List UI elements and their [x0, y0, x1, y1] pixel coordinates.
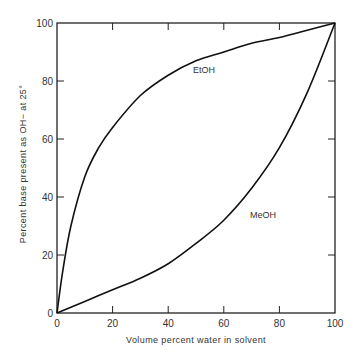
data-series: EtOHMeOH [57, 23, 335, 313]
y-tick-label: 40 [42, 192, 54, 203]
y-tick-label: 100 [36, 18, 53, 29]
x-tick-label: 80 [274, 318, 286, 329]
y-axis-title: Percent base present as OH− at 25° [18, 85, 28, 244]
y-tick-label: 80 [42, 76, 54, 87]
x-axis-title: Volume percent water in solvent [126, 335, 266, 345]
y-tick-label: 0 [47, 308, 53, 319]
axis-ticks: 020406080100020406080100 [36, 18, 343, 329]
series-label-meoh: MeOH [250, 210, 276, 220]
series-label-etoh: EtOH [193, 65, 215, 75]
x-tick-label: 40 [163, 318, 175, 329]
y-tick-label: 20 [42, 250, 54, 261]
x-tick-label: 20 [107, 318, 119, 329]
x-tick-label: 60 [218, 318, 230, 329]
chart: 020406080100020406080100 EtOHMeOH Volume… [0, 0, 361, 357]
x-tick-label: 100 [327, 318, 344, 329]
y-tick-label: 60 [42, 134, 54, 145]
x-tick-label: 0 [54, 318, 60, 329]
